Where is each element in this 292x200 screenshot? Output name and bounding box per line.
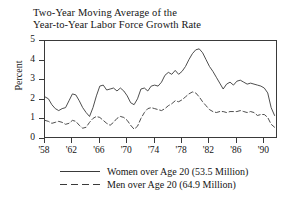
y-tick-label: 3: [21, 74, 35, 84]
y-tick-label: 1: [21, 113, 35, 123]
series-line-women: [45, 49, 275, 117]
x-tick-label: '58: [31, 145, 57, 155]
legend-swatch-dashed-icon: [60, 180, 100, 189]
chart-screenshot: Two-Year Moving Average of the Year-to-Y…: [0, 0, 292, 200]
y-tick-label: 2: [21, 94, 35, 104]
page-title: Two-Year Moving Average of the Year-to-Y…: [33, 7, 263, 32]
series-line-men: [45, 92, 275, 129]
x-tick-label: '74: [141, 145, 167, 155]
legend-item-men: Men over Age 20 (64.9 Million): [60, 178, 280, 191]
plot-lines: [45, 41, 278, 139]
x-tick-label: '78: [168, 145, 194, 155]
plot-area: [44, 40, 277, 138]
legend-label-women: Women over Age 20 (53.5 Million): [107, 166, 248, 177]
x-tick-label: '82: [195, 145, 221, 155]
legend-label-men: Men over Age 20 (64.9 Million): [107, 179, 236, 190]
y-tick-label: 5: [21, 35, 35, 45]
x-tick-label: '86: [223, 145, 249, 155]
x-tick-label: '90: [250, 145, 276, 155]
legend-swatch-solid-icon: [60, 167, 100, 176]
legend-item-women: Women over Age 20 (53.5 Million): [60, 165, 280, 178]
x-tick-label: '70: [113, 145, 139, 155]
x-tick-label: '62: [58, 145, 84, 155]
x-tick-label: '66: [86, 145, 112, 155]
y-tick-label: 4: [21, 55, 35, 65]
legend: Women over Age 20 (53.5 Million) Men ove…: [60, 165, 280, 191]
y-tick-label: 0: [21, 133, 35, 143]
